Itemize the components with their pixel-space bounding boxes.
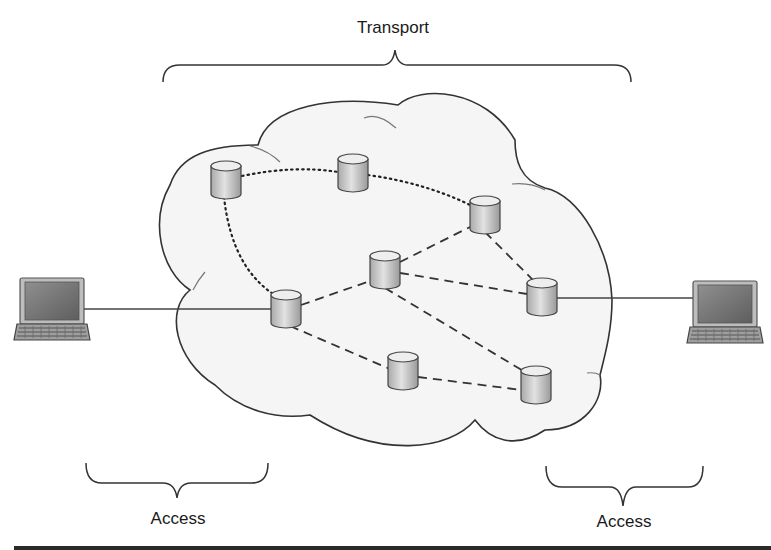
network-node-8 — [521, 366, 551, 404]
laptop-icon-right — [687, 281, 763, 343]
network-diagram: Transport Access — [0, 0, 771, 550]
network-node-1 — [211, 161, 241, 199]
laptop-icon-left — [14, 278, 90, 340]
network-node-2 — [338, 154, 368, 192]
network-node-7 — [388, 352, 418, 390]
transport-label: Transport — [357, 18, 429, 37]
bottom-rule — [14, 546, 771, 550]
network-node-6 — [527, 278, 557, 316]
access-label-right: Access — [597, 512, 652, 531]
transport-brace — [163, 50, 631, 82]
network-node-4 — [370, 251, 400, 289]
access-brace-right — [546, 466, 703, 506]
access-brace-left — [86, 463, 268, 498]
network-node-3 — [470, 196, 500, 234]
network-node-5 — [271, 290, 301, 328]
access-label-left: Access — [151, 509, 206, 528]
